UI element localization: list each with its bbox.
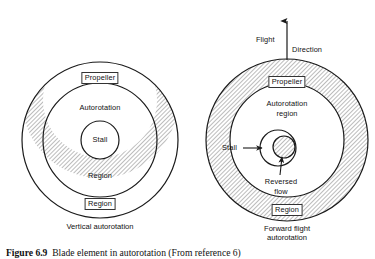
right-label-reversed-line1: Reversed bbox=[265, 178, 297, 187]
autorotation-diagram-svg bbox=[0, 0, 375, 259]
figure-caption-text: Blade element in autorotation (From refe… bbox=[52, 247, 241, 258]
reversed-flow-disc bbox=[273, 136, 295, 158]
right-label-propeller: Propeller bbox=[268, 76, 305, 88]
right-label-region-outer: Region bbox=[272, 204, 303, 216]
figure-caption-label: Figure 6.9 bbox=[6, 247, 47, 258]
right-sub-caption-line2: autorotation bbox=[267, 233, 307, 242]
right-label-reversed-line2: flow bbox=[274, 188, 288, 197]
left-label-region-outer: Region bbox=[85, 198, 116, 210]
right-sub-caption-line1: Forward flight bbox=[264, 224, 310, 233]
figure-caption: Figure 6.9 Blade element in autorotation… bbox=[6, 247, 370, 258]
left-label-stall: Stall bbox=[93, 136, 108, 145]
right-label-stall: Stall bbox=[222, 144, 237, 153]
left-sub-caption: Vertical autorotation bbox=[66, 222, 133, 231]
figure-container: Propeller Autorotation Stall Region Regi… bbox=[0, 0, 375, 259]
left-label-autorotation: Autorotation bbox=[79, 104, 120, 113]
right-label-direction: Direction bbox=[292, 46, 322, 55]
left-label-region-inner: Region bbox=[88, 172, 112, 181]
right-label-autorotation-line2: region bbox=[276, 110, 297, 119]
right-label-autorotation-line1: Autorotation bbox=[266, 100, 307, 109]
right-label-flight: Flight bbox=[256, 36, 275, 45]
left-label-propeller: Propeller bbox=[81, 72, 118, 84]
